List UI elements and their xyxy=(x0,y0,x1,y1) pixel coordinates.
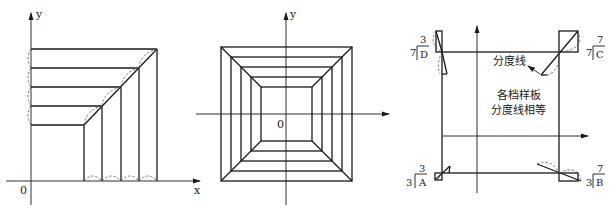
center-text-line2: 分度线相等 xyxy=(491,103,546,117)
svg-text:7: 7 xyxy=(410,47,416,58)
svg-text:A: A xyxy=(418,177,427,188)
label-c: 7 7 C xyxy=(586,34,605,60)
diagram-canvas: y x 0 y 0 xyxy=(0,0,614,215)
annotation-arrow xyxy=(528,66,540,74)
svg-text:7: 7 xyxy=(597,34,603,45)
left-panel: y x 0 xyxy=(6,8,201,205)
y-axis-label: y xyxy=(35,8,43,21)
center-text-line1: 各档样板 xyxy=(497,88,541,102)
svg-text:D: D xyxy=(420,49,428,60)
svg-text:C: C xyxy=(596,49,604,60)
svg-text:3: 3 xyxy=(406,177,412,188)
svg-text:3: 3 xyxy=(586,177,592,188)
division-line-label: 分度线 xyxy=(493,54,526,68)
svg-text:7: 7 xyxy=(586,47,592,58)
svg-text:B: B xyxy=(596,177,603,188)
corner-template-c xyxy=(541,31,580,75)
origin-label: 0 xyxy=(277,118,284,131)
label-d: 3 7 D xyxy=(410,34,429,60)
svg-text:3: 3 xyxy=(420,34,426,45)
svg-text:7: 7 xyxy=(597,163,603,174)
right-panel: 分度线 各档样板 分度线相等 3 7 D 7 7 C 3 3 A xyxy=(406,26,605,193)
origin-label: 0 xyxy=(20,184,27,197)
y-axis-label: y xyxy=(289,8,297,21)
x-axis-label: x xyxy=(194,184,201,197)
svg-text:3: 3 xyxy=(419,163,425,174)
label-b: 7 3 B xyxy=(586,163,605,188)
label-a: 3 3 A xyxy=(406,163,427,188)
middle-panel: y 0 xyxy=(196,8,389,205)
